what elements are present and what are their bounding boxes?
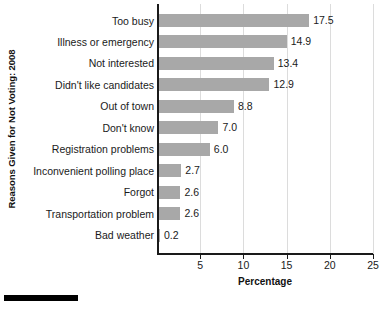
x-tick-label: 5 bbox=[185, 259, 215, 271]
category-label: Transportation problem bbox=[20, 208, 154, 220]
bar-value-label: 2.6 bbox=[184, 186, 199, 199]
category-label: Registration problems bbox=[20, 143, 154, 155]
category-label: Out of town bbox=[20, 100, 154, 112]
bar[interactable] bbox=[158, 186, 180, 199]
plot-area: 17.514.913.412.98.87.06.02.72.62.60.2 bbox=[157, 4, 373, 254]
bar-value-label: 2.6 bbox=[184, 207, 199, 220]
bar-value-label: 14.9 bbox=[291, 35, 311, 48]
category-label: Don't know bbox=[20, 122, 154, 134]
bar[interactable] bbox=[158, 57, 274, 70]
x-tick-label: 25 bbox=[358, 259, 383, 271]
x-axis-tick-labels: 510152025 bbox=[157, 259, 373, 273]
x-tick-label: 20 bbox=[315, 259, 345, 271]
x-axis-title: Percentage bbox=[157, 276, 373, 287]
category-label: Bad weather bbox=[20, 229, 154, 241]
y-axis-title-container: Reasons Given for Not Voting: 2008 bbox=[0, 0, 22, 258]
gridline-25 bbox=[373, 4, 374, 254]
category-label: Too busy bbox=[20, 15, 154, 27]
bar-value-label: 8.8 bbox=[238, 100, 253, 113]
x-axis-line bbox=[157, 253, 373, 255]
bar[interactable] bbox=[158, 121, 218, 134]
y-axis-title: Reasons Given for Not Voting: 2008 bbox=[6, 49, 17, 208]
bar-value-label: 2.7 bbox=[185, 164, 200, 177]
bar[interactable] bbox=[158, 100, 234, 113]
bar[interactable] bbox=[158, 35, 287, 48]
category-label: Illness or emergency bbox=[20, 36, 154, 48]
x-tick-label: 10 bbox=[228, 259, 258, 271]
x-tick-label: 15 bbox=[272, 259, 302, 271]
bar-value-label: 12.9 bbox=[273, 78, 293, 91]
category-label: Not interested bbox=[20, 57, 154, 69]
bar[interactable] bbox=[158, 207, 180, 220]
bar-value-label: 7.0 bbox=[222, 121, 237, 134]
category-label: Forgot bbox=[20, 186, 154, 198]
bar-value-label: 13.4 bbox=[278, 57, 298, 70]
bar[interactable] bbox=[158, 14, 309, 27]
bar-chart-figure: Reasons Given for Not Voting: 2008 Too b… bbox=[0, 0, 383, 312]
category-label: Inconvenient polling place bbox=[20, 165, 154, 177]
category-labels: Too busyIllness or emergencyNot interest… bbox=[20, 8, 154, 254]
bar[interactable] bbox=[158, 143, 210, 156]
bar[interactable] bbox=[158, 164, 181, 177]
bar-value-label: 0.2 bbox=[164, 229, 179, 242]
gridline-20 bbox=[330, 4, 331, 254]
bar[interactable] bbox=[158, 78, 269, 91]
bottom-black-rule bbox=[4, 295, 78, 301]
category-label: Didn't like candidates bbox=[20, 79, 154, 91]
bar-value-label: 6.0 bbox=[214, 143, 229, 156]
gridline-15 bbox=[287, 4, 288, 254]
bar-value-label: 17.5 bbox=[313, 14, 333, 27]
y-axis-line bbox=[157, 4, 159, 254]
